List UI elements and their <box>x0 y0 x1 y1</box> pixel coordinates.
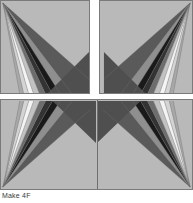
top-block-row <box>0 0 193 94</box>
quilt-block-bottom-pair <box>0 99 193 190</box>
bottom-block-row <box>0 99 193 190</box>
bottom-center-divider <box>97 100 98 190</box>
figure-caption: Make 4F <box>2 191 31 200</box>
quilt-block-top-left <box>0 0 90 94</box>
top-right-block-art <box>100 1 192 93</box>
quilt-block-figure: Make 4F <box>0 0 193 203</box>
quilt-block-top-right <box>99 0 193 94</box>
top-left-block-art <box>1 1 89 93</box>
